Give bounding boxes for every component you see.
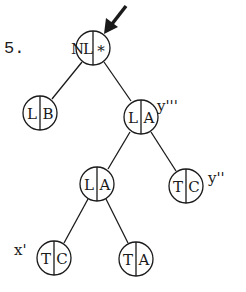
node-la-upper: L A y''': [124, 97, 178, 134]
node-ta-bottom: T A: [119, 242, 153, 276]
annotation-x-prime: x': [14, 241, 27, 259]
annotation-y-triple-prime: y''': [156, 97, 178, 115]
node-tc-right: T C y'': [169, 169, 225, 203]
tree-svg: 5. NL * L B L A y''' L A: [0, 0, 246, 292]
node-root: NL *: [71, 31, 110, 65]
node-la-lower-left: L: [84, 176, 94, 194]
edge-la-upper-tc-right: [151, 132, 176, 171]
figure-number: 5.: [4, 39, 24, 58]
node-root-left: NL: [71, 40, 93, 58]
edge-la-lower-tc-bottom: [64, 199, 88, 243]
node-la-upper-left: L: [128, 109, 138, 127]
node-tc-bottom-left: T: [41, 250, 51, 268]
edge-la-lower-ta-bottom: [106, 199, 128, 243]
node-tc-right-right: C: [188, 178, 199, 196]
edges: [52, 62, 176, 243]
pointer-arrow-icon: [104, 6, 126, 34]
node-la-lower: L A: [80, 167, 114, 201]
node-lb-left: L: [27, 105, 37, 123]
node-la-upper-right: A: [143, 109, 155, 127]
annotation-y-double-prime: y'': [207, 169, 225, 187]
edge-root-lb: [52, 62, 82, 99]
node-tc-right-left: T: [173, 178, 183, 196]
edge-root-la-upper: [104, 62, 131, 101]
node-ta-bottom-right: A: [138, 251, 150, 269]
tree-diagram: 5. NL * L B L A y''' L A: [0, 0, 246, 292]
node-lb: L B: [23, 96, 57, 130]
node-ta-bottom-left: T: [123, 251, 133, 269]
edge-la-upper-la-lower: [108, 132, 130, 169]
node-lb-right: B: [42, 105, 53, 123]
node-la-lower-right: A: [99, 176, 111, 194]
node-root-right: *: [97, 42, 105, 60]
node-tc-bottom: T C x': [14, 241, 71, 275]
node-tc-bottom-right: C: [56, 250, 67, 268]
